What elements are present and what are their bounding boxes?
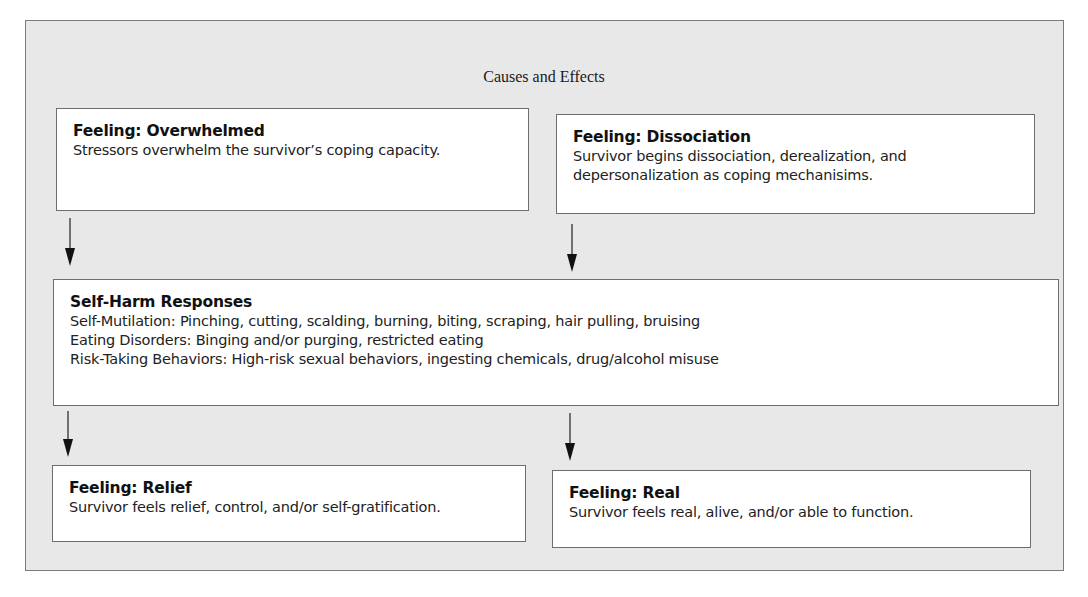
box-text: Survivor feels real, alive, and/or able … [569,503,1016,522]
box-self-harm-responses: Self-Harm Responses Self-Mutilation: Pin… [53,279,1059,406]
arrow-down-icon [565,224,579,272]
box-feeling-real: Feeling: Real Survivor feels real, alive… [552,470,1031,548]
box-heading: Feeling: Relief [69,479,511,498]
box-text: Survivor begins dissociation, derealizat… [573,147,973,185]
box-heading: Feeling: Real [569,484,1016,503]
box-feeling-overwhelmed: Feeling: Overwhelmed Stressors overwhelm… [56,108,529,211]
diagram-title: Causes and Effects [0,68,1088,86]
box-heading: Feeling: Dissociation [573,128,1020,147]
box-heading: Self-Harm Responses [70,293,1044,312]
box-feeling-relief: Feeling: Relief Survivor feels relief, c… [52,465,526,542]
box-text: Stressors overwhelm the survivor’s copin… [73,141,514,160]
box-feeling-dissociation: Feeling: Dissociation Survivor begins di… [556,114,1035,214]
arrow-down-icon [61,411,75,457]
risk-taking-line: Risk-Taking Behaviors: High-risk sexual … [70,350,1044,369]
arrow-down-icon [563,413,577,461]
eating-disorders-line: Eating Disorders: Binging and/or purging… [70,331,1044,350]
box-heading: Feeling: Overwhelmed [73,122,514,141]
box-text: Survivor feels relief, control, and/or s… [69,498,511,517]
self-mutilation-line: Self-Mutilation: Pinching, cutting, scal… [70,312,1044,331]
arrow-down-icon [63,218,77,266]
